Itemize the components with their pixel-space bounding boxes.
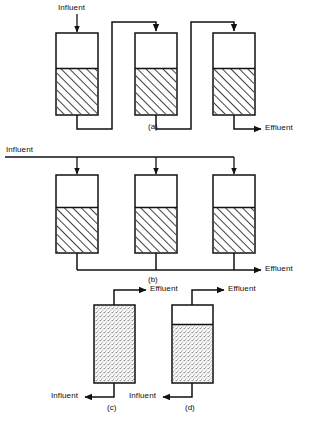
tank-d-media — [173, 325, 212, 382]
effluent-label-a: Effluent — [265, 124, 293, 132]
influent-label-d: Influent — [129, 392, 156, 400]
panel-a-series — [56, 14, 261, 129]
panel-d-upflow-headspace — [163, 290, 224, 397]
tank-b3-media — [214, 208, 254, 252]
effluent-label-d: Effluent — [228, 285, 256, 293]
influent-label-a: Influent — [58, 4, 85, 12]
caption-a: (a) — [148, 123, 158, 131]
caption-c: (c) — [107, 404, 116, 412]
influent-pipe-c — [85, 383, 114, 397]
tank-b1-media — [57, 208, 97, 252]
influent-label-b: Influent — [6, 146, 33, 154]
effluent-pipe-a — [234, 115, 261, 129]
tank-a1-media — [57, 69, 97, 114]
effluent-label-b: Effluent — [265, 265, 293, 273]
panel-b-parallel — [5, 157, 261, 270]
caption-b: (b) — [148, 276, 158, 284]
effluent-label-c: Effluent — [150, 285, 178, 293]
panel-c-upflow — [85, 290, 146, 397]
tank-a2-media — [136, 69, 176, 114]
caption-d: (d) — [185, 404, 195, 412]
effluent-pipe-d — [192, 290, 224, 305]
influent-pipe-d — [163, 383, 192, 397]
tank-a3-media — [214, 69, 254, 114]
tank-c-body — [94, 305, 135, 383]
influent-label-c: Influent — [51, 392, 78, 400]
effluent-pipe-c — [114, 290, 146, 305]
diagram-canvas — [0, 0, 309, 421]
tank-b2-media — [136, 208, 176, 252]
process-flow-figure: Influent Effluent (a) Influent Effluent … — [0, 0, 309, 421]
